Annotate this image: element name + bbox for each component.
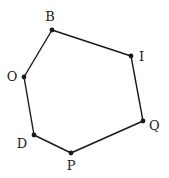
edge-o-b: [24, 30, 52, 77]
vertex-labels: BIQPDO: [7, 9, 160, 173]
polygon-edges: [24, 30, 143, 153]
edge-p-d: [34, 135, 71, 153]
vertex-d: [32, 133, 37, 138]
vertex-b: [50, 28, 55, 33]
edge-b-i: [52, 30, 131, 56]
vertex-label-p: P: [67, 158, 76, 173]
edge-q-p: [71, 121, 143, 153]
vertex-label-o: O: [7, 69, 18, 84]
vertex-q: [141, 119, 146, 124]
vertex-label-b: B: [45, 9, 55, 24]
edge-i-q: [131, 56, 143, 121]
vertex-label-q: Q: [149, 118, 160, 133]
vertex-label-d: D: [17, 136, 27, 151]
vertex-p: [69, 151, 74, 156]
polygon-vertices: [22, 28, 146, 156]
vertex-label-i: I: [139, 49, 144, 64]
vertex-o: [22, 75, 27, 80]
edge-d-o: [24, 77, 34, 135]
vertex-i: [129, 54, 134, 59]
polygon-diagram: BIQPDO: [0, 0, 169, 178]
